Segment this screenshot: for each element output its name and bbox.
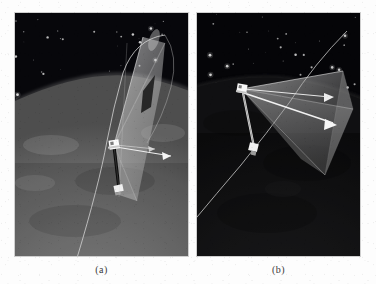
- star: [239, 32, 240, 33]
- star: [139, 38, 140, 39]
- star: [116, 31, 117, 32]
- star: [343, 44, 345, 46]
- star: [265, 52, 266, 53]
- star: [60, 38, 61, 39]
- earth-terminator-shading: [197, 133, 361, 257]
- star: [212, 23, 214, 25]
- star: [120, 36, 122, 38]
- panel-b-image: [196, 12, 361, 257]
- panel-b-scene: [197, 13, 361, 257]
- star: [139, 41, 142, 44]
- star: [338, 68, 341, 71]
- star: [277, 38, 279, 40]
- star: [299, 74, 301, 76]
- star: [232, 63, 234, 65]
- star: [155, 23, 156, 24]
- star: [295, 42, 296, 43]
- earth-terminator-shading: [15, 163, 189, 257]
- figure-panel-a: (a): [14, 12, 189, 279]
- star: [294, 54, 297, 57]
- panel-a-image: [14, 12, 189, 257]
- panel-a-caption: (a): [14, 264, 189, 275]
- star: [216, 14, 217, 15]
- star: [41, 71, 43, 73]
- panel-a-scene: [15, 13, 189, 257]
- star: [37, 19, 38, 20]
- star: [268, 30, 269, 31]
- star: [283, 60, 284, 61]
- star: [23, 41, 24, 42]
- star: [163, 21, 164, 22]
- star: [226, 65, 229, 68]
- star: [209, 54, 212, 57]
- star: [319, 40, 320, 41]
- star: [253, 63, 254, 64]
- star: [354, 83, 356, 85]
- star: [93, 31, 95, 33]
- star: [16, 93, 19, 96]
- star: [248, 49, 249, 50]
- star: [355, 17, 356, 18]
- star: [311, 66, 313, 68]
- figure-panel-b: (b): [196, 12, 361, 279]
- star: [109, 71, 110, 72]
- star: [132, 33, 135, 36]
- star: [303, 54, 305, 56]
- star: [42, 73, 44, 75]
- star: [344, 35, 347, 38]
- star: [285, 33, 287, 35]
- star: [46, 36, 48, 38]
- star: [150, 27, 153, 30]
- star: [33, 59, 34, 60]
- satellite-body: [108, 139, 120, 149]
- star: [246, 31, 248, 33]
- star: [15, 20, 17, 22]
- star: [117, 46, 118, 47]
- star: [23, 31, 24, 32]
- star: [209, 73, 212, 76]
- star: [262, 16, 263, 17]
- star: [62, 38, 64, 40]
- star: [331, 66, 334, 69]
- star: [60, 69, 61, 70]
- satellite-body: [236, 83, 248, 94]
- star: [120, 65, 121, 66]
- star: [57, 30, 58, 31]
- star: [280, 46, 282, 48]
- figure-container: (a): [0, 0, 376, 284]
- panel-b-caption: (b): [196, 264, 361, 275]
